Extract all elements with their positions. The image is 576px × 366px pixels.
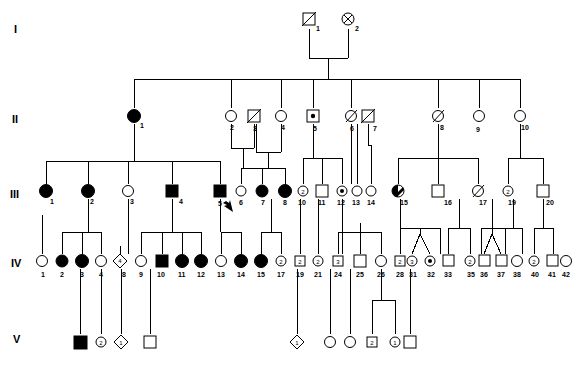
individual-II-4[interactable]: 4 bbox=[276, 111, 287, 132]
id-label: 7 bbox=[261, 199, 265, 206]
individual-IV-12[interactable]: 12 bbox=[195, 255, 208, 279]
proband-arrow-icon bbox=[223, 200, 233, 212]
individual-IV-35[interactable]: 2 35 bbox=[465, 256, 475, 278]
individual-III-4[interactable]: 4 bbox=[166, 185, 183, 205]
connector-gen3-to-gen4 bbox=[42, 199, 553, 254]
individual-IV-21[interactable]: 2 21 bbox=[313, 256, 323, 278]
id-label: 17 bbox=[479, 199, 487, 206]
individual-IV-14[interactable]: 14 bbox=[235, 255, 248, 279]
individual-IV-41[interactable]: 41 bbox=[547, 255, 558, 278]
id-label: 15 bbox=[257, 271, 265, 278]
generation-label-IV: IV bbox=[11, 257, 22, 269]
id-label: 9 bbox=[139, 271, 143, 278]
individual-IV-17[interactable]: 2 17 bbox=[276, 256, 286, 278]
individual-V-9[interactable]: 1 bbox=[390, 337, 400, 347]
individual-IV-26[interactable]: 26 bbox=[376, 256, 387, 279]
individual-IV-3[interactable]: 3 bbox=[76, 255, 89, 279]
individual-III-8[interactable]: 8 bbox=[279, 185, 292, 207]
individual-V-6[interactable] bbox=[325, 337, 336, 348]
individual-IV-8[interactable]: 4 8 bbox=[113, 254, 127, 278]
individual-IV-24[interactable]: 3 24 bbox=[333, 256, 343, 278]
pedigree-chart-page: I II III IV V bbox=[0, 0, 576, 366]
individual-III-12[interactable]: 12 bbox=[337, 186, 347, 206]
individual-V-1[interactable] bbox=[74, 336, 87, 349]
individual-II-6[interactable]: 6 bbox=[346, 110, 358, 132]
individual-IV-19[interactable]: 2 19 bbox=[295, 256, 305, 278]
individual-III-6[interactable]: 6 bbox=[236, 186, 246, 206]
id-label: 13 bbox=[217, 271, 225, 278]
id-label: 1 bbox=[140, 122, 144, 129]
individual-III-15[interactable]: 15 bbox=[392, 185, 408, 206]
individual-III-16[interactable]: 16 bbox=[432, 185, 452, 206]
id-label: 15 bbox=[400, 199, 408, 206]
id-label: 1 bbox=[316, 25, 320, 32]
id-label: 37 bbox=[497, 271, 505, 278]
id-label: 4 bbox=[281, 124, 285, 131]
individual-V-4[interactable] bbox=[144, 336, 156, 348]
individual-III-11[interactable]: 11 bbox=[316, 185, 328, 206]
individual-IV-4[interactable]: 4 bbox=[96, 256, 107, 279]
id-label: 2 bbox=[60, 271, 64, 278]
id-label: 21 bbox=[314, 271, 322, 278]
individual-V-8[interactable]: 2 bbox=[367, 337, 377, 347]
id-label: 3 bbox=[253, 125, 257, 132]
individual-V-5[interactable]: 1 bbox=[290, 335, 304, 349]
individual-IV-13[interactable]: 13 bbox=[216, 256, 227, 279]
id-label: 9 bbox=[476, 126, 480, 133]
id-label: 6 bbox=[350, 125, 354, 132]
individual-II-1[interactable]: 1 bbox=[128, 110, 145, 130]
id-label: 4 bbox=[99, 271, 103, 278]
individual-IV-28[interactable]: 2 28 bbox=[395, 256, 405, 278]
id-label: 38 bbox=[513, 271, 521, 278]
individual-IV-31[interactable]: 3 31 bbox=[407, 256, 417, 278]
individual-IV-40[interactable]: 2 40 bbox=[529, 256, 539, 278]
individual-III-14[interactable]: 14 bbox=[366, 186, 376, 206]
individual-IV-9[interactable]: 9 bbox=[136, 256, 147, 279]
individual-II-5[interactable]: 5 bbox=[307, 110, 319, 132]
individual-III-19[interactable]: 2 19 bbox=[503, 186, 516, 206]
id-label: 12 bbox=[337, 199, 345, 206]
individual-V-10[interactable] bbox=[404, 336, 416, 348]
individual-III-10[interactable]: 2 10 bbox=[298, 186, 308, 206]
id-label: 17 bbox=[277, 271, 285, 278]
id-label: 35 bbox=[467, 271, 475, 278]
individual-II-3[interactable]: 3 bbox=[247, 109, 261, 132]
id-label: 6 bbox=[239, 199, 243, 206]
individual-III-17[interactable]: 17 bbox=[473, 185, 487, 206]
individual-III-5[interactable]: 5 bbox=[214, 185, 233, 212]
individual-II-2[interactable]: 2 bbox=[226, 111, 237, 132]
individual-III-13[interactable]: 13 bbox=[352, 186, 362, 206]
individual-III-20[interactable]: 20 bbox=[537, 185, 554, 206]
individual-IV-38[interactable]: 38 bbox=[512, 256, 523, 279]
id-label: 8 bbox=[283, 199, 287, 206]
individual-IV-10[interactable]: 10 bbox=[156, 255, 168, 278]
generation-label-V: V bbox=[13, 333, 21, 345]
pedigree-diagram: I II III IV V bbox=[0, 0, 576, 366]
individual-V-2[interactable]: 2 bbox=[96, 337, 106, 347]
individual-III-1[interactable]: 1 bbox=[40, 185, 55, 206]
individual-II-9[interactable]: 9 bbox=[474, 111, 485, 134]
individual-I-1[interactable]: 1 bbox=[302, 12, 320, 32]
individual-IV-2[interactable]: 2 bbox=[56, 255, 68, 278]
id-label: 20 bbox=[546, 199, 554, 206]
individual-IV-15[interactable]: 15 bbox=[255, 255, 268, 279]
individual-III-7[interactable]: 7 bbox=[256, 185, 268, 206]
individual-IV-11[interactable]: 11 bbox=[176, 255, 189, 279]
individual-IV-32[interactable]: 32 bbox=[425, 256, 435, 278]
individual-IV-37[interactable]: 37 bbox=[496, 255, 507, 278]
id-label: 2 bbox=[230, 124, 234, 131]
individual-V-3[interactable]: 1 bbox=[114, 335, 128, 349]
individual-V-7[interactable] bbox=[345, 337, 356, 348]
id-label: 5 bbox=[218, 200, 222, 207]
individual-IV-36[interactable]: 36 bbox=[479, 255, 490, 278]
id-label: 19 bbox=[508, 199, 516, 206]
individual-IV-33[interactable]: 33 bbox=[443, 255, 454, 278]
individual-IV-25[interactable]: 25 bbox=[354, 255, 366, 278]
individual-I-2[interactable]: 2 bbox=[342, 13, 359, 32]
id-label: 28 bbox=[396, 271, 404, 278]
individual-IV-1[interactable]: 1 bbox=[37, 256, 48, 279]
id-label: 42 bbox=[562, 271, 570, 278]
individual-IV-42[interactable]: 42 bbox=[561, 256, 572, 279]
individual-II-10[interactable]: 10 bbox=[515, 111, 529, 132]
individual-II-7[interactable]: 7 bbox=[361, 109, 377, 132]
